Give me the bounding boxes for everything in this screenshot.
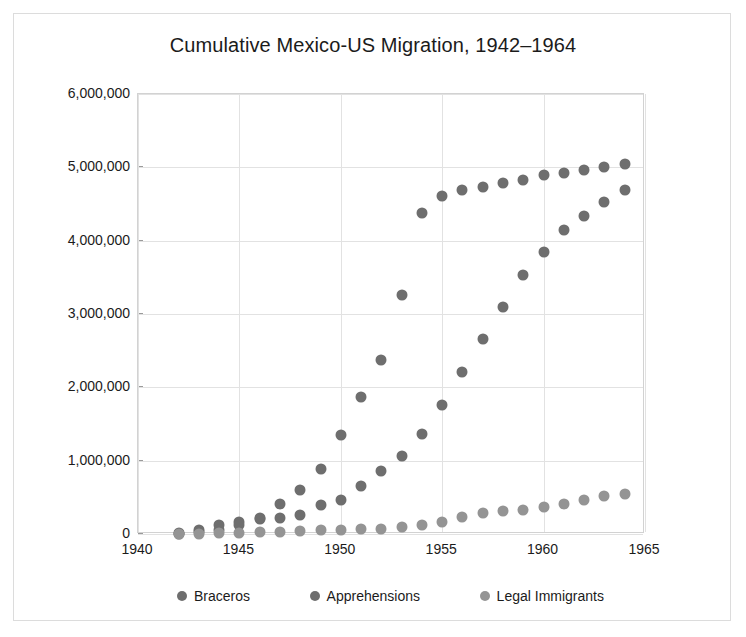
data-point (376, 523, 387, 534)
data-point (477, 508, 488, 519)
chart-title: Cumulative Mexico-US Migration, 1942–196… (14, 34, 732, 57)
data-points-layer (138, 94, 643, 532)
data-point (457, 366, 468, 377)
data-point (579, 495, 590, 506)
x-axis-tick-label: 1960 (513, 541, 573, 557)
data-point (477, 334, 488, 345)
data-point (254, 513, 265, 524)
plot-area (137, 93, 644, 533)
data-point (558, 225, 569, 236)
data-point (234, 527, 245, 538)
data-point (274, 526, 285, 537)
data-point (335, 494, 346, 505)
y-axis-tick-labels: 01,000,0002,000,0003,000,0004,000,0005,0… (22, 93, 130, 533)
y-axis-tick-label: 4,000,000 (30, 232, 130, 248)
data-point (376, 354, 387, 365)
data-point (274, 499, 285, 510)
data-point (579, 165, 590, 176)
data-point (579, 211, 590, 222)
legend-marker-icon (177, 591, 187, 601)
x-axis-tick-label: 1945 (208, 541, 268, 557)
y-axis-tick-label: 5,000,000 (30, 158, 130, 174)
data-point (356, 480, 367, 491)
data-point (619, 159, 630, 170)
data-point (437, 516, 448, 527)
data-point (416, 208, 427, 219)
y-axis-tick-label: 2,000,000 (30, 378, 130, 394)
legend-item[interactable]: Braceros (177, 588, 250, 604)
data-point (295, 510, 306, 521)
data-point (518, 270, 529, 281)
data-point (315, 525, 326, 536)
legend-item-label: Apprehensions (327, 588, 420, 604)
data-point (335, 524, 346, 535)
legend-marker-icon (310, 591, 320, 601)
data-point (396, 522, 407, 533)
data-point (193, 528, 204, 539)
data-point (437, 399, 448, 410)
data-point (518, 174, 529, 185)
chart-legend: BracerosApprehensionsLegal Immigrants (137, 584, 644, 608)
data-point (599, 162, 610, 173)
data-point (254, 527, 265, 538)
data-point (599, 491, 610, 502)
data-point (558, 499, 569, 510)
data-point (214, 528, 225, 539)
data-point (457, 184, 468, 195)
chart-card: Cumulative Mexico-US Migration, 1942–196… (13, 13, 731, 621)
gridline-vertical (645, 94, 646, 532)
legend-item[interactable]: Apprehensions (310, 588, 420, 604)
data-point (599, 197, 610, 208)
data-point (396, 289, 407, 300)
data-point (274, 512, 285, 523)
data-point (376, 466, 387, 477)
y-axis-tick-label: 6,000,000 (30, 85, 130, 101)
data-point (498, 302, 509, 313)
data-point (558, 167, 569, 178)
data-point (315, 499, 326, 510)
x-axis-tick-labels: 194019451950195519601965 (137, 541, 644, 563)
y-axis-tick-label: 0 (30, 525, 130, 541)
data-point (477, 181, 488, 192)
data-point (619, 488, 630, 499)
data-point (356, 392, 367, 403)
data-point (315, 463, 326, 474)
legend-marker-icon (480, 591, 490, 601)
data-point (498, 178, 509, 189)
data-point (518, 504, 529, 515)
data-point (538, 169, 549, 180)
legend-item[interactable]: Legal Immigrants (480, 588, 604, 604)
y-axis-tick-label: 3,000,000 (30, 305, 130, 321)
data-point (457, 511, 468, 522)
data-point (498, 506, 509, 517)
data-point (437, 190, 448, 201)
x-axis-tick-label: 1940 (107, 541, 167, 557)
data-point (416, 519, 427, 530)
data-point (538, 502, 549, 513)
data-point (356, 524, 367, 535)
data-point (335, 429, 346, 440)
y-axis-tick-label: 1,000,000 (30, 452, 130, 468)
data-point (538, 246, 549, 257)
data-point (396, 451, 407, 462)
x-axis-tick-label: 1965 (614, 541, 674, 557)
data-point (619, 185, 630, 196)
legend-item-label: Legal Immigrants (497, 588, 604, 604)
data-point (416, 428, 427, 439)
data-point (295, 525, 306, 536)
x-axis-tick-label: 1955 (411, 541, 471, 557)
x-axis-tick-label: 1950 (310, 541, 370, 557)
data-point (173, 528, 184, 539)
data-point (295, 485, 306, 496)
legend-item-label: Braceros (194, 588, 250, 604)
